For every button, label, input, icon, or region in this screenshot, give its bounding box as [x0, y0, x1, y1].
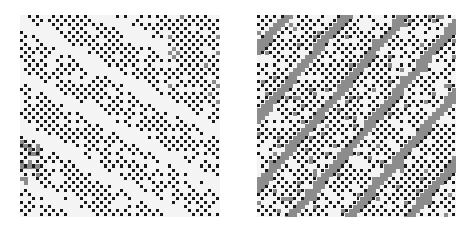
left-automaton-canvas — [20, 15, 220, 217]
right-automaton-canvas — [257, 15, 456, 217]
left-automaton-panel — [20, 15, 220, 217]
right-automaton-panel — [257, 15, 456, 217]
